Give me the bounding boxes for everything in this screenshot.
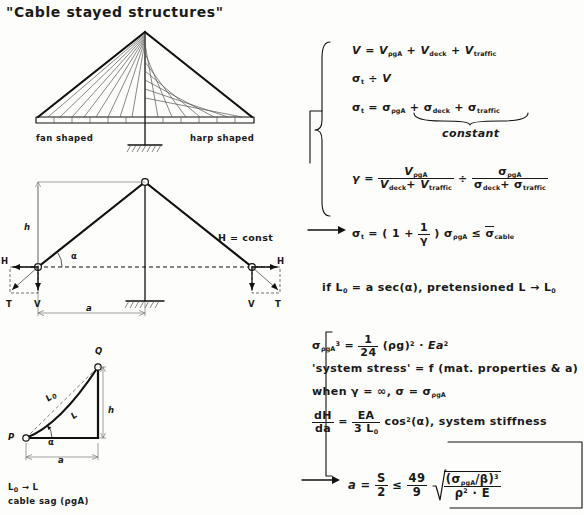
triangle-caption-line2: cable sag (ρgA)	[8, 496, 89, 506]
truss-left-t-label: T	[6, 299, 12, 309]
truss-span-label: a	[86, 303, 92, 313]
equation-gamma-infinity-note: when γ = ∞, σ = σρgA	[312, 385, 446, 399]
truss-angle-label: α	[71, 251, 77, 261]
equation-final-span-limit: a = S2 ≤ 499 (σρgA/β)3 ρ2 · E	[348, 468, 501, 502]
equation-sigma-cubed: σρgA3 = 124 (ρg)2 · Ea2	[312, 334, 449, 358]
equation-sigma-over-volume: σt ÷ V	[352, 72, 391, 86]
cable-sag-triangle-diagram	[0, 345, 200, 475]
equation-gamma-ratio: γ = VρgA Vdeck+ Vtraffic ÷ σρgA σdeck+ σ…	[352, 166, 548, 192]
equation-sigma-limit: σt = ( 1 + 1γ ) σρgA ≤ σcable	[352, 222, 514, 246]
equation-pretension-note: if L0 = a sec(α), pretensioned L → L0	[322, 281, 556, 295]
triangle-height-label: h	[108, 405, 114, 415]
equation-system-stiffness: dHda = EA3 L0 cos2(α), system stiffness	[312, 410, 547, 435]
triangle-caption-line1: L0 → L	[8, 482, 38, 494]
truss-left-h-label: H	[1, 256, 9, 266]
truss-right-t-label: T	[275, 299, 281, 309]
equation-system-stress-note: 'system stress' = f (mat. properties & a…	[312, 362, 578, 375]
triangle-angle-label: α	[48, 437, 54, 447]
truss-const-note: H = const	[218, 232, 273, 243]
truss-left-v-label: V	[34, 299, 41, 309]
constant-label: constant	[442, 127, 499, 140]
truss-force-diagram	[0, 168, 300, 323]
triangle-point-p-label: P	[8, 432, 15, 442]
truss-right-v-label: V	[248, 299, 255, 309]
triangle-base-label: a	[58, 455, 64, 465]
triangle-point-q-label: Q	[95, 346, 103, 356]
bridge-left-label: fan shaped	[36, 133, 93, 143]
arrow-to-sigma-limit	[306, 222, 350, 238]
truss-right-h-label: H	[277, 256, 285, 266]
equation-volume-sum: V = VρgA + Vdeck + Vtraffic	[352, 44, 497, 58]
equation-group-bracket	[306, 38, 346, 218]
bridge-right-label: harp shaped	[190, 133, 254, 143]
page-title: "Cable stayed structures"	[6, 4, 224, 20]
constant-underbrace	[412, 112, 532, 126]
truss-height-label: h	[24, 222, 30, 232]
